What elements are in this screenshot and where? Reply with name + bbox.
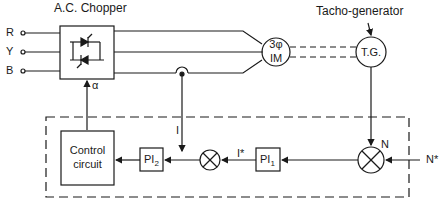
chopper-title: A.C. Chopper — [54, 2, 127, 14]
speed-ref-label: N* — [426, 154, 438, 165]
pi2-label: PI2 — [144, 154, 159, 168]
motor-type-label: IM — [262, 53, 290, 64]
motor-phase-label: 3φ — [262, 39, 290, 50]
speed-feedback-label: N — [381, 139, 389, 150]
current-feedback-label: I — [176, 125, 179, 136]
input-terminals — [21, 31, 60, 73]
tg-label: T.G. — [356, 47, 386, 58]
input-label-y: Y — [6, 46, 13, 57]
control-label-1: Control — [61, 145, 114, 156]
input-label-b: B — [6, 65, 13, 76]
alpha-label: α — [92, 80, 98, 91]
thyristor-icon — [70, 34, 104, 68]
pi1-label: PI1 — [260, 154, 275, 168]
ac-chopper-block — [60, 26, 114, 79]
diagram-canvas — [0, 0, 446, 208]
current-ref-label: I* — [237, 148, 244, 159]
tacho-title: Tacho-generator — [316, 5, 403, 17]
control-label-2: circuit — [61, 159, 114, 170]
input-label-r: R — [6, 27, 14, 38]
